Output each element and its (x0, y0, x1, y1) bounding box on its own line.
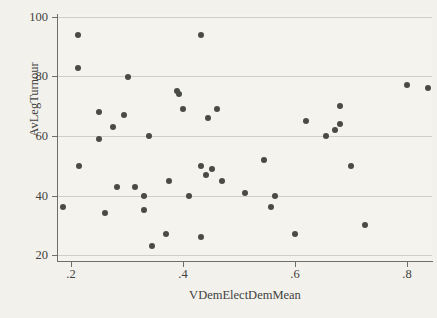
y-tick-mark (52, 17, 57, 18)
y-tick: 20 (0, 249, 48, 261)
data-point (163, 231, 169, 237)
data-point (75, 65, 81, 71)
data-point (198, 234, 204, 240)
data-point (176, 91, 182, 97)
data-point (209, 166, 215, 172)
data-point (214, 106, 220, 112)
data-point (114, 184, 120, 190)
x-tick-label: .8 (387, 268, 427, 281)
data-point (102, 210, 108, 216)
data-point (149, 243, 155, 249)
data-point (203, 172, 209, 178)
scatter-chart: 20406080100 .2.4.6.8 AvLegTurnour VDemEl… (0, 0, 437, 318)
data-point (348, 163, 354, 169)
data-point (425, 85, 431, 91)
data-point (198, 163, 204, 169)
data-point (96, 136, 102, 142)
x-tick-label: .4 (163, 268, 203, 281)
data-point (198, 32, 204, 38)
y-tick-mark (52, 136, 57, 137)
data-point (110, 124, 116, 130)
y-tick-mark (52, 255, 57, 256)
data-point (303, 118, 309, 124)
data-point (337, 103, 343, 109)
data-point (205, 115, 211, 121)
data-point (186, 193, 192, 199)
y-tick-mark (52, 196, 57, 197)
data-point (337, 121, 343, 127)
data-point (141, 193, 147, 199)
data-point (60, 204, 66, 210)
data-point (272, 193, 278, 199)
data-points-layer (57, 14, 432, 261)
data-point (75, 32, 81, 38)
data-point (332, 127, 338, 133)
y-axis-line (57, 14, 58, 262)
data-point (292, 231, 298, 237)
data-point (141, 207, 147, 213)
x-tick-label: .2 (51, 268, 91, 281)
data-point (125, 74, 131, 80)
data-point (362, 222, 368, 228)
data-point (121, 112, 127, 118)
data-point (261, 157, 267, 163)
data-point (219, 178, 225, 184)
data-point (404, 82, 410, 88)
data-point (132, 184, 138, 190)
data-point (323, 133, 329, 139)
x-tick-label: .6 (275, 268, 315, 281)
y-tick-label: 40 (14, 190, 48, 202)
data-point (146, 133, 152, 139)
y-tick-label: 20 (14, 249, 48, 261)
data-point (268, 204, 274, 210)
x-axis-title: VDemElectDemMean (57, 288, 433, 303)
data-point (96, 109, 102, 115)
data-point (76, 163, 82, 169)
data-point (166, 178, 172, 184)
y-axis-title: AvLegTurnour (27, 20, 42, 180)
y-tick-mark (52, 76, 57, 77)
data-point (242, 190, 248, 196)
x-axis-line (57, 261, 433, 262)
plot-area (57, 14, 432, 261)
data-point (180, 106, 186, 112)
y-tick: 40 (0, 190, 48, 202)
